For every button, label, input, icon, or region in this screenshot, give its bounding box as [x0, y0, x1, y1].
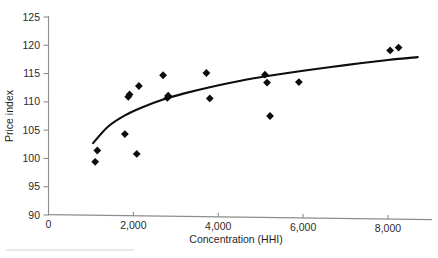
- data-point-marker: [263, 79, 271, 87]
- trend-line: [93, 57, 418, 143]
- scatter-plot: 9095100105110115120125 02,0004,0006,0008…: [0, 0, 438, 258]
- data-point-marker: [295, 78, 303, 86]
- y-tick-label: 110: [23, 95, 40, 107]
- y-tick-label: 100: [22, 152, 40, 164]
- x-axis-title: Concentration (HHI): [189, 233, 282, 245]
- y-tick-label: 125: [22, 11, 40, 23]
- y-tick-label: 90: [28, 209, 40, 221]
- data-point-marker: [159, 71, 167, 79]
- scan-artifact: [6, 249, 134, 251]
- figure-container: 9095100105110115120125 02,0004,0006,0008…: [0, 0, 438, 258]
- x-tick-label: 8,000: [375, 222, 401, 234]
- data-point-marker: [133, 150, 141, 158]
- trend-line-group: [93, 57, 418, 143]
- data-point-marker: [266, 112, 274, 120]
- y-tick-label: 120: [22, 39, 40, 51]
- x-tick-label: 2,000: [120, 219, 146, 231]
- data-point-group: [91, 44, 402, 166]
- data-point-marker: [395, 44, 403, 52]
- data-point-marker: [121, 130, 129, 138]
- y-axis-ticks: 9095100105110115120125: [22, 11, 48, 221]
- x-tick-label: 0: [46, 218, 52, 230]
- x-tick-label: 6,000: [290, 221, 316, 233]
- y-tick-label: 95: [28, 180, 40, 192]
- data-point-marker: [93, 147, 101, 155]
- data-point-marker: [386, 46, 394, 54]
- x-tick-label: 4,000: [205, 220, 231, 232]
- y-axis-title: Price index: [3, 89, 15, 142]
- y-tick-label: 105: [22, 124, 40, 136]
- y-tick-label: 115: [23, 67, 40, 79]
- data-point-marker: [91, 158, 99, 166]
- data-point-marker: [206, 95, 214, 103]
- x-axis-line: [49, 215, 433, 220]
- data-point-marker: [202, 69, 210, 77]
- data-point-marker: [135, 82, 143, 90]
